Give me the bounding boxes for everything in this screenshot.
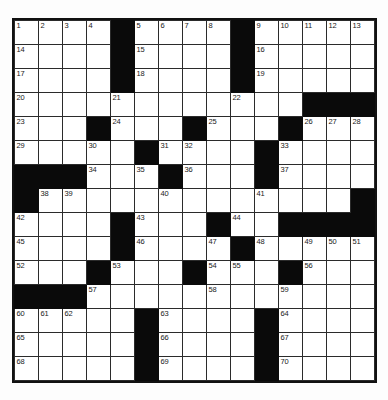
crossword-cell[interactable]: 59: [278, 284, 302, 308]
crossword-cell[interactable]: [62, 236, 86, 260]
crossword-cell[interactable]: [326, 68, 350, 92]
crossword-cell[interactable]: [62, 44, 86, 68]
crossword-cell[interactable]: [326, 188, 350, 212]
crossword-cell[interactable]: 1: [14, 20, 38, 44]
crossword-cell[interactable]: [326, 140, 350, 164]
crossword-cell[interactable]: 56: [302, 260, 326, 284]
crossword-cell[interactable]: [86, 44, 110, 68]
crossword-cell[interactable]: 3: [62, 20, 86, 44]
crossword-cell[interactable]: 15: [134, 44, 158, 68]
crossword-cell[interactable]: 40: [158, 188, 182, 212]
crossword-cell[interactable]: [326, 332, 350, 356]
crossword-cell[interactable]: [350, 332, 374, 356]
crossword-cell[interactable]: [86, 68, 110, 92]
crossword-cell[interactable]: [62, 356, 86, 380]
crossword-cell[interactable]: 9: [254, 20, 278, 44]
crossword-cell[interactable]: [110, 140, 134, 164]
crossword-cell[interactable]: [350, 44, 374, 68]
crossword-cell[interactable]: [158, 68, 182, 92]
crossword-cell[interactable]: [350, 140, 374, 164]
crossword-cell[interactable]: [230, 284, 254, 308]
crossword-cell[interactable]: [86, 356, 110, 380]
crossword-cell[interactable]: 36: [182, 164, 206, 188]
crossword-cell[interactable]: 49: [302, 236, 326, 260]
crossword-cell[interactable]: [230, 308, 254, 332]
crossword-cell[interactable]: [206, 308, 230, 332]
crossword-cell[interactable]: [254, 92, 278, 116]
crossword-cell[interactable]: 47: [206, 236, 230, 260]
crossword-cell[interactable]: 14: [14, 44, 38, 68]
crossword-cell[interactable]: [158, 284, 182, 308]
crossword-cell[interactable]: 26: [302, 116, 326, 140]
crossword-cell[interactable]: [182, 92, 206, 116]
crossword-cell[interactable]: [158, 212, 182, 236]
crossword-cell[interactable]: 33: [278, 140, 302, 164]
crossword-cell[interactable]: 10: [278, 20, 302, 44]
crossword-cell[interactable]: 57: [86, 284, 110, 308]
crossword-cell[interactable]: 13: [350, 20, 374, 44]
crossword-cell[interactable]: 66: [158, 332, 182, 356]
crossword-cell[interactable]: 54: [206, 260, 230, 284]
crossword-cell[interactable]: [350, 308, 374, 332]
crossword-cell[interactable]: [182, 356, 206, 380]
crossword-cell[interactable]: [230, 116, 254, 140]
crossword-cell[interactable]: [86, 188, 110, 212]
crossword-cell[interactable]: [134, 284, 158, 308]
crossword-cell[interactable]: [278, 68, 302, 92]
crossword-cell[interactable]: 39: [62, 188, 86, 212]
crossword-cell[interactable]: [350, 164, 374, 188]
crossword-cell[interactable]: [182, 284, 206, 308]
crossword-cell[interactable]: 67: [278, 332, 302, 356]
crossword-cell[interactable]: [62, 140, 86, 164]
crossword-cell[interactable]: [38, 332, 62, 356]
crossword-cell[interactable]: [134, 92, 158, 116]
crossword-cell[interactable]: 12: [326, 20, 350, 44]
crossword-cell[interactable]: 30: [86, 140, 110, 164]
crossword-cell[interactable]: [134, 188, 158, 212]
crossword-cell[interactable]: [38, 212, 62, 236]
crossword-cell[interactable]: [110, 308, 134, 332]
crossword-cell[interactable]: [326, 356, 350, 380]
crossword-cell[interactable]: [230, 188, 254, 212]
crossword-cell[interactable]: [86, 308, 110, 332]
crossword-cell[interactable]: 20: [14, 92, 38, 116]
crossword-cell[interactable]: [278, 236, 302, 260]
crossword-cell[interactable]: [302, 44, 326, 68]
crossword-cell[interactable]: [110, 188, 134, 212]
crossword-cell[interactable]: [38, 116, 62, 140]
crossword-cell[interactable]: 8: [206, 20, 230, 44]
crossword-cell[interactable]: 4: [86, 20, 110, 44]
crossword-cell[interactable]: [302, 188, 326, 212]
crossword-cell[interactable]: 55: [230, 260, 254, 284]
crossword-cell[interactable]: 48: [254, 236, 278, 260]
crossword-grid[interactable]: 1234567891011121314151617181920212223242…: [14, 20, 375, 381]
crossword-cell[interactable]: [38, 356, 62, 380]
crossword-cell[interactable]: 22: [230, 92, 254, 116]
crossword-cell[interactable]: [158, 44, 182, 68]
crossword-cell[interactable]: [254, 284, 278, 308]
crossword-cell[interactable]: [62, 68, 86, 92]
crossword-cell[interactable]: 61: [38, 308, 62, 332]
crossword-cell[interactable]: 19: [254, 68, 278, 92]
crossword-cell[interactable]: [62, 260, 86, 284]
crossword-cell[interactable]: 37: [278, 164, 302, 188]
crossword-cell[interactable]: [302, 164, 326, 188]
crossword-cell[interactable]: [158, 236, 182, 260]
crossword-cell[interactable]: 34: [86, 164, 110, 188]
crossword-cell[interactable]: [182, 68, 206, 92]
crossword-cell[interactable]: [38, 68, 62, 92]
crossword-cell[interactable]: [86, 212, 110, 236]
crossword-cell[interactable]: 6: [158, 20, 182, 44]
crossword-cell[interactable]: [326, 260, 350, 284]
crossword-cell[interactable]: [326, 308, 350, 332]
crossword-cell[interactable]: [206, 164, 230, 188]
crossword-cell[interactable]: [38, 236, 62, 260]
crossword-cell[interactable]: 27: [326, 116, 350, 140]
crossword-cell[interactable]: [182, 212, 206, 236]
crossword-cell[interactable]: [278, 92, 302, 116]
crossword-cell[interactable]: [86, 332, 110, 356]
crossword-cell[interactable]: 65: [14, 332, 38, 356]
crossword-cell[interactable]: 44: [230, 212, 254, 236]
crossword-cell[interactable]: 2: [38, 20, 62, 44]
crossword-cell[interactable]: 70: [278, 356, 302, 380]
